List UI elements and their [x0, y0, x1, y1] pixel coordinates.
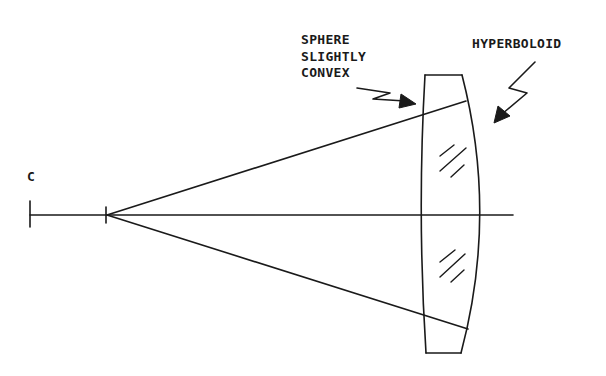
hatch-marks-upper	[440, 145, 466, 177]
sphere-label: SPHERE SLIGHTLY CONVEX	[301, 32, 366, 80]
svg-text:CONVEX: CONVEX	[301, 65, 350, 80]
upper-ray	[107, 101, 466, 215]
lens-ray-diagram: C SPHERE SLIGHTLY CONVEX HYPERBOLOI	[0, 0, 606, 376]
lens-front-surface-sphere	[421, 75, 426, 353]
lens	[421, 75, 480, 353]
svg-text:SLIGHTLY: SLIGHTLY	[301, 49, 366, 64]
hatch-marks-lower	[440, 250, 465, 282]
center-label: C	[27, 169, 35, 184]
svg-text:SPHERE: SPHERE	[301, 32, 350, 47]
hyperboloid-label: HYPERBOLOID	[472, 36, 561, 51]
lower-ray	[107, 215, 468, 329]
hyperboloid-arrow-icon	[494, 62, 535, 123]
sphere-arrow-icon	[357, 88, 416, 108]
lens-rear-surface-hyperboloid	[461, 75, 480, 353]
